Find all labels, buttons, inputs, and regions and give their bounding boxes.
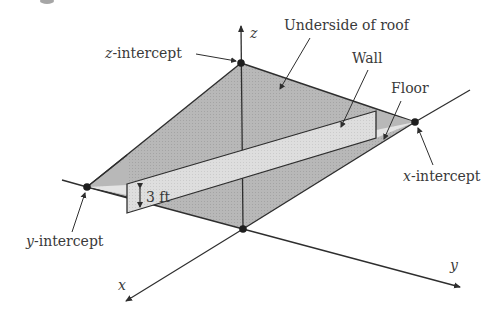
x-axis-label: x <box>118 277 126 293</box>
z-intercept-leader <box>196 54 236 61</box>
z-intercept-point <box>237 59 245 67</box>
floor-label: Floor <box>391 80 429 96</box>
wall-height-label: 3 ft <box>146 189 171 205</box>
x-intercept-point <box>411 118 419 126</box>
roof-plane-diagram: 3 ft z x y z-intercept Underside of roof… <box>0 0 501 318</box>
cropped-heading-fragment <box>40 0 54 4</box>
y-intercept-label: y-intercept <box>25 233 104 249</box>
x-intercept-label: x-intercept <box>403 168 481 184</box>
wall-label: Wall <box>352 50 383 66</box>
origin-point <box>239 225 247 233</box>
roof-underside-label: Underside of roof <box>284 17 411 33</box>
x-intercept-leader <box>418 128 433 165</box>
diagram-canvas: 3 ft z x y z-intercept Underside of roof… <box>0 0 501 318</box>
y-axis-label: y <box>449 257 459 273</box>
z-intercept-label: z-intercept <box>104 45 182 61</box>
z-axis-label: z <box>249 25 258 41</box>
y-axis <box>243 229 460 287</box>
x-axis <box>126 229 243 301</box>
y-axis-back <box>62 180 87 187</box>
y-intercept-point <box>83 183 91 191</box>
y-intercept-leader <box>72 193 85 232</box>
